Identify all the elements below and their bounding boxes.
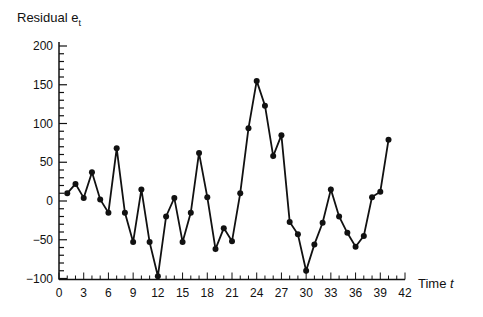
data-point	[377, 189, 383, 195]
data-point	[97, 196, 103, 202]
x-tick-label: 6	[105, 286, 112, 300]
data-point	[254, 78, 260, 84]
data-point	[295, 231, 301, 237]
x-axis-label: Time t	[418, 276, 454, 291]
residual-time-series-chart: −100−50050100150200 03691215182124273033…	[0, 0, 483, 317]
data-point	[262, 103, 268, 109]
x-tick-label: 42	[398, 286, 412, 300]
x-tick-label: 0	[56, 286, 63, 300]
residual-line	[67, 81, 388, 276]
x-tick-label: 24	[250, 286, 264, 300]
data-point	[353, 244, 359, 250]
data-point	[311, 241, 317, 247]
y-tick-label: 150	[33, 78, 53, 92]
data-point	[114, 145, 120, 151]
data-point	[221, 225, 227, 231]
data-point	[89, 169, 95, 175]
data-point	[138, 186, 144, 192]
data-point	[204, 194, 210, 200]
x-tick-label: 27	[275, 286, 289, 300]
data-point	[72, 181, 78, 187]
data-point	[213, 246, 219, 252]
data-point	[369, 194, 375, 200]
y-tick-label: −50	[33, 233, 54, 247]
x-tick-label: 9	[130, 286, 137, 300]
data-point	[361, 233, 367, 239]
y-tick-label: 200	[33, 39, 53, 53]
data-point	[245, 125, 251, 131]
data-point	[336, 214, 342, 220]
data-point	[386, 137, 392, 143]
x-tick-label: 12	[151, 286, 165, 300]
x-tick-label: 33	[324, 286, 338, 300]
data-point	[328, 186, 334, 192]
data-point	[344, 230, 350, 236]
data-point	[270, 153, 276, 159]
data-point	[229, 238, 235, 244]
x-tick-label: 15	[176, 286, 190, 300]
data-point	[180, 239, 186, 245]
x-tick-label: 21	[225, 286, 239, 300]
x-tick-label: 30	[299, 286, 313, 300]
data-point	[196, 150, 202, 156]
data-point	[287, 219, 293, 225]
y-axis-ticks: −100−50050100150200	[26, 39, 67, 286]
data-point	[147, 239, 153, 245]
x-tick-label: 36	[349, 286, 363, 300]
y-tick-label: 0	[46, 194, 53, 208]
data-point	[122, 210, 128, 216]
y-tick-label: 100	[33, 117, 53, 131]
data-point	[64, 190, 70, 196]
data-point	[171, 195, 177, 201]
data-point	[303, 268, 309, 274]
data-point	[320, 220, 326, 226]
data-point	[130, 239, 136, 245]
y-axis-label: Residual et	[17, 10, 81, 28]
x-tick-label: 18	[201, 286, 215, 300]
data-point	[163, 214, 169, 220]
y-tick-label: −100	[26, 272, 53, 286]
x-tick-label: 39	[374, 286, 388, 300]
data-point	[188, 210, 194, 216]
data-point	[278, 132, 284, 138]
y-tick-label: 50	[40, 155, 54, 169]
x-axis-ticks: 03691215182124273033363942	[56, 273, 412, 300]
x-tick-label: 3	[80, 286, 87, 300]
data-point	[155, 273, 161, 279]
data-point	[105, 210, 111, 216]
data-point	[81, 195, 87, 201]
data-point	[237, 190, 243, 196]
